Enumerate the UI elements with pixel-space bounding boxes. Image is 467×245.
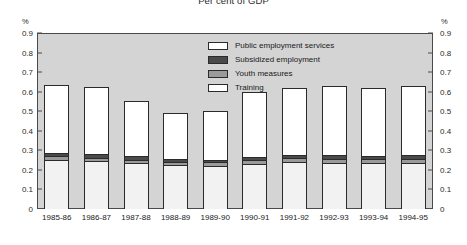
bar-segment: [283, 89, 306, 156]
bar-segment: [323, 164, 346, 209]
y-axis-tick-label-right: 0: [440, 205, 444, 214]
bar-segment: [402, 164, 425, 209]
x-axis-tick-label: 1990-91: [240, 213, 269, 222]
legend-item[interactable]: Youth measures: [208, 67, 334, 80]
legend-item[interactable]: Training: [208, 81, 334, 94]
bar-column[interactable]: [282, 88, 307, 209]
bar-segment: [164, 114, 187, 160]
bar-segment: [85, 88, 108, 155]
y-axis-tick-label-left: 0.1: [22, 185, 33, 194]
y-axis-tick-label-left: 0.6: [22, 87, 33, 96]
bar-column[interactable]: [242, 92, 267, 209]
y-axis-unit-left: %: [22, 17, 29, 26]
chart-title: Per cent of GDP: [0, 0, 467, 6]
y-axis-tick-label-right: 0.8: [440, 48, 451, 57]
x-axis-tick-label: 1985-86: [42, 213, 71, 222]
bar-segment: [204, 112, 227, 160]
y-axis-tick-label-right: 0.1: [440, 185, 451, 194]
bar-segment: [323, 87, 346, 156]
legend-item-label: Subsidized employment: [235, 55, 320, 64]
bar-segment: [362, 164, 385, 209]
bar-column[interactable]: [322, 86, 347, 209]
bar-segment: [45, 161, 68, 209]
legend-swatch-icon: [208, 70, 228, 78]
legend-swatch-icon: [208, 56, 228, 64]
bar-segment: [243, 93, 266, 158]
y-axis-tick-label-right: 0.9: [440, 29, 451, 38]
x-axis-tick-label: 1992-93: [319, 213, 348, 222]
y-axis-tick-label-left: 0.9: [22, 29, 33, 38]
bar-column[interactable]: [44, 85, 69, 209]
bar-column[interactable]: [361, 88, 386, 209]
y-axis-tick-label-right: 0.3: [440, 146, 451, 155]
legend-item[interactable]: Subsidized employment: [208, 53, 334, 66]
bar-column[interactable]: [124, 101, 149, 209]
chart-container: Per cent of GDP % % 000.10.10.20.20.30.3…: [0, 0, 467, 245]
legend-swatch-icon: [208, 42, 228, 50]
x-axis-tick-label: 1987-88: [121, 213, 150, 222]
y-axis-tick-label-right: 0.4: [440, 126, 451, 135]
y-axis-tick-label-left: 0.2: [22, 165, 33, 174]
y-axis-tick-label-left: 0.8: [22, 48, 33, 57]
y-axis-tick-label-left: 0.7: [22, 68, 33, 77]
legend-item[interactable]: Public employment services: [208, 39, 334, 52]
chart-legend: Public employment servicesSubsidized emp…: [208, 39, 334, 95]
legend-item-label: Youth measures: [235, 69, 293, 78]
bar-column[interactable]: [401, 86, 426, 209]
bar-segment: [45, 86, 68, 154]
bar-segment: [402, 87, 425, 156]
y-axis-tick-label-right: 0.6: [440, 87, 451, 96]
legend-swatch-icon: [208, 84, 228, 92]
bar-column[interactable]: [203, 111, 228, 209]
y-axis-unit-right: %: [441, 17, 448, 26]
x-axis-tick-label: 1991-92: [280, 213, 309, 222]
y-axis-tick-label-right: 0.7: [440, 68, 451, 77]
y-axis-tick-label-left: 0.4: [22, 126, 33, 135]
legend-item-label: Public employment services: [235, 41, 334, 50]
bar-column[interactable]: [84, 87, 109, 209]
x-axis-tick-label: 1994-95: [399, 213, 428, 222]
x-axis-labels: 1985-861986-871987-881988-891989-901990-…: [37, 213, 433, 227]
y-axis-tick-label-left: 0: [29, 205, 33, 214]
x-axis-tick-label: 1989-90: [201, 213, 230, 222]
y-axis-tick-label-right: 0.2: [440, 165, 451, 174]
bar-segment: [125, 102, 148, 157]
bar-segment: [243, 165, 266, 209]
bar-segment: [125, 164, 148, 209]
y-axis-tick-label-left: 0.5: [22, 107, 33, 116]
x-axis-tick-label: 1986-87: [82, 213, 111, 222]
bar-segment: [283, 163, 306, 209]
bar-segment: [164, 166, 187, 209]
x-axis-tick-label: 1993-94: [359, 213, 388, 222]
bar-segment: [204, 167, 227, 209]
legend-item-label: Training: [235, 83, 264, 92]
x-axis-tick-label: 1988-89: [161, 213, 190, 222]
bar-segment: [362, 89, 385, 157]
y-axis-tick-label-right: 0.5: [440, 107, 451, 116]
bar-segment: [85, 162, 108, 209]
y-axis-tick-label-left: 0.3: [22, 146, 33, 155]
bar-column[interactable]: [163, 113, 188, 209]
